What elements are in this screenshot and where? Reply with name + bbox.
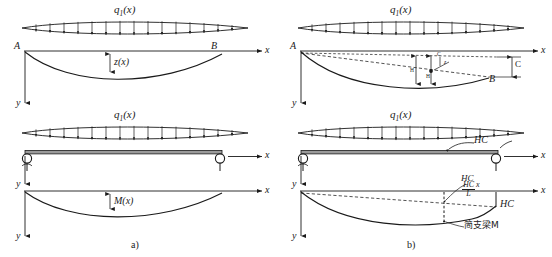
panel-b-axis-x-mid: x (541, 150, 545, 160)
panel-b-load-label-2: q1(x) (390, 109, 411, 123)
panel-b-detail-h2-label: H (426, 74, 430, 80)
figure-vector-layer (0, 0, 552, 257)
panel-a-node-a-label: A (14, 41, 20, 51)
panel-a-axis-y-top: y (16, 98, 20, 108)
panel-a-moment-label: M(x) (114, 196, 133, 206)
panel-b-axis-y-bot: y (292, 231, 296, 241)
panel-a-load-label: q1(x) (114, 4, 135, 18)
panel-b-load-label: q1(x) (390, 4, 411, 18)
panel-b-axis-y-top: y (292, 98, 296, 108)
panel-a-axis-x-mid: x (265, 150, 269, 160)
panel-b-detail-z-label: z (444, 60, 446, 66)
figure-root: q1(x) A B x y z(x) q1(x) x y x y M(x) a)… (0, 0, 552, 257)
panel-a-axis-x-top: x (265, 45, 269, 55)
panel-b-dim-c-label: C (515, 60, 521, 69)
panel-b-detail-c-label: C (437, 52, 441, 58)
panel-b-axis-x-bot: x (541, 185, 545, 195)
panel-b-deflection-plot (300, 51, 538, 103)
panel-a-caption: a) (131, 240, 139, 250)
panel-a-load-label-2: q1(x) (114, 109, 135, 123)
panel-b-axis-x-top: x (541, 45, 545, 55)
panel-a-load-diagram-2 (22, 126, 248, 140)
panel-b-load-diagram (298, 21, 524, 35)
panel-b-moment-plot (300, 184, 538, 236)
panel-b-hc-over-l-fraction: HC L (462, 181, 475, 198)
fraction-denominator: L (462, 190, 475, 198)
panel-a-beam-supports (22, 151, 262, 185)
panel-a-load-diagram (22, 21, 248, 35)
panel-a-axis-y-bot: y (16, 231, 20, 241)
panel-b-fraction-multiplier: x (476, 181, 480, 189)
panel-b-node-b-label: B (489, 74, 495, 84)
panel-a-moment-plot (24, 191, 262, 236)
panel-b-simple-beam-moment-label: 简支梁M (464, 221, 499, 230)
panel-a-axis-x-bot: x (265, 185, 269, 195)
panel-b-detail-h-label: H (410, 68, 414, 74)
panel-b-hc-label-right: HC (500, 199, 514, 209)
panel-b-node-a-label: A (290, 41, 296, 51)
panel-b-axis-y-mid: y (292, 179, 296, 189)
panel-a-node-b-label: B (211, 41, 217, 51)
panel-b-load-diagram-2 (298, 126, 524, 140)
panel-a-deflection-label: z(x) (114, 57, 129, 67)
panel-b-beam-supports (298, 141, 538, 184)
panel-a-axis-y-mid: y (16, 179, 20, 189)
panel-a-deflection-plot (24, 51, 262, 103)
panel-b-hc-label-top: HC (474, 135, 488, 145)
panel-b-caption: b) (407, 240, 415, 250)
